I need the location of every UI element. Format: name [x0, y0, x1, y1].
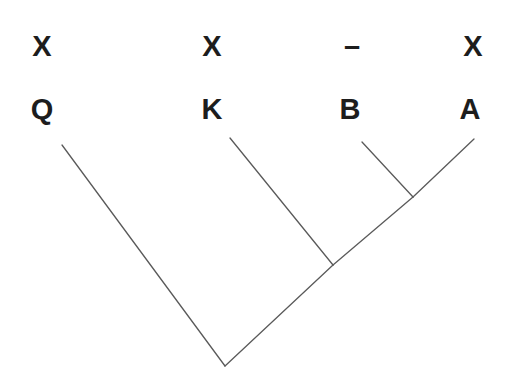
- branch-b: [362, 142, 413, 197]
- branch-bak-to-root: [225, 265, 333, 366]
- branch-a: [413, 139, 474, 197]
- tree-branches: [0, 0, 510, 384]
- branch-ba-to-bak: [333, 197, 413, 265]
- branch-k: [230, 138, 333, 265]
- cladogram-diagram: X X – X Q K B A: [0, 0, 510, 384]
- branch-q: [62, 145, 225, 366]
